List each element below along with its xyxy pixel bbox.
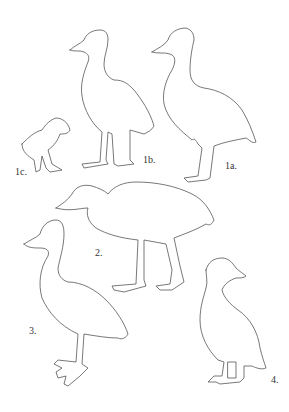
silhouettes-canvas bbox=[0, 0, 289, 412]
bird-1a-outline bbox=[152, 28, 256, 182]
bird-1c-outline bbox=[22, 118, 70, 172]
label-1c: 1c. bbox=[15, 167, 27, 177]
bird-1b-outline bbox=[70, 30, 154, 168]
label-2: 2. bbox=[95, 248, 103, 258]
bird-3-outline bbox=[24, 220, 128, 386]
bird-2-outline bbox=[56, 182, 214, 292]
label-1b: 1b. bbox=[143, 155, 156, 165]
bird-4-leg bbox=[228, 362, 236, 378]
label-1a: 1a. bbox=[225, 161, 237, 171]
label-3: 3. bbox=[29, 326, 37, 336]
bird-silhouettes-figure: 1b. 1a. 1c. 2. 3. 4. bbox=[0, 0, 289, 412]
label-4: 4. bbox=[271, 375, 279, 385]
